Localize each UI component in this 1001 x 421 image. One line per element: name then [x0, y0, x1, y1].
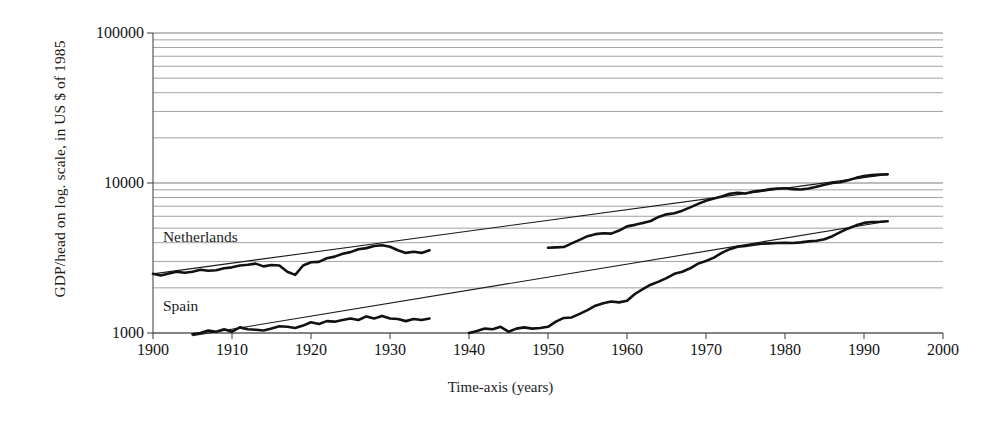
- series-spain-post-war: [469, 221, 888, 333]
- series-label-spain: Spain: [163, 297, 198, 315]
- x-axis-title: Time-axis (years): [0, 379, 1001, 396]
- trendline-1: [193, 221, 888, 335]
- series-label-netherlands: Netherlands: [163, 228, 238, 246]
- trend-lines: [153, 174, 888, 335]
- series-spain-pre-war: [193, 316, 430, 334]
- x-tick-label-1950: 1950: [508, 341, 588, 359]
- x-tick-label-1900: 1900: [113, 341, 193, 359]
- y-tick-label-1000: 1000: [44, 324, 144, 342]
- x-tick-label-2000: 2000: [903, 341, 983, 359]
- y-tick-label-10000: 10000: [44, 174, 144, 192]
- data-series: [153, 174, 888, 334]
- series-netherlands-pre-war: [153, 245, 430, 275]
- chart-figure: GDP/head on log. scale, in US $ of 1985 …: [0, 0, 1001, 421]
- y-tick-label-100000: 100000: [44, 24, 144, 42]
- x-tick-label-1930: 1930: [350, 341, 430, 359]
- x-tick-label-1940: 1940: [429, 341, 509, 359]
- x-tick-label-1910: 1910: [192, 341, 272, 359]
- x-tick-label-1920: 1920: [271, 341, 351, 359]
- x-tick-label-1970: 1970: [666, 341, 746, 359]
- x-tick-label-1980: 1980: [745, 341, 825, 359]
- series-netherlands-post-war: [548, 174, 888, 247]
- x-tick-label-1990: 1990: [824, 341, 904, 359]
- x-tick-label-1960: 1960: [587, 341, 667, 359]
